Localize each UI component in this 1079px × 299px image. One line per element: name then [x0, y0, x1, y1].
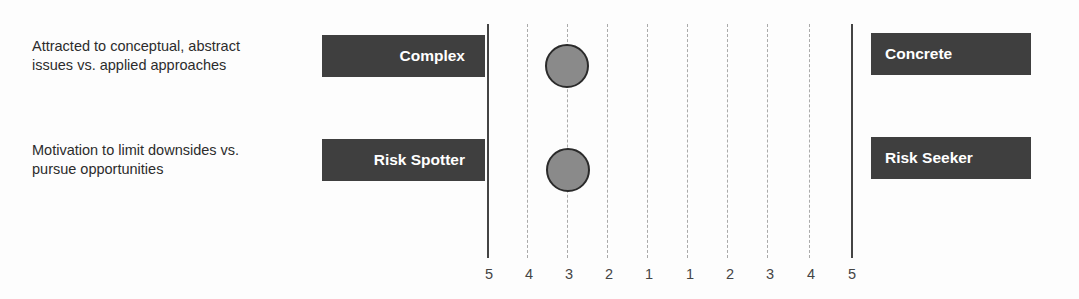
grid-line: [767, 24, 768, 258]
left-pole-risk-spotter: Risk Spotter: [322, 139, 485, 181]
tick-label: 4: [801, 266, 821, 282]
row-label-1-line2: issues vs. applied approaches: [32, 56, 322, 75]
row-label-2-line1: Motivation to limit downsides vs.: [32, 141, 322, 160]
left-pole-complex: Complex: [322, 35, 485, 77]
right-axis-line: [851, 24, 853, 258]
grid-line: [809, 24, 810, 258]
grid-line: [727, 24, 728, 258]
right-pole-concrete: Concrete: [871, 33, 1031, 75]
tick-label: 1: [680, 266, 700, 282]
tick-label: 5: [842, 266, 862, 282]
grid-line: [687, 24, 688, 258]
tick-label: 2: [599, 266, 619, 282]
row-label-1-line1: Attracted to conceptual, abstract: [32, 37, 322, 56]
grid-line: [607, 24, 608, 258]
row-label-2: Motivation to limit downsides vs. pursue…: [32, 141, 322, 179]
right-pole-risk-seeker: Risk Seeker: [871, 137, 1031, 179]
tick-label: 5: [479, 266, 499, 282]
tick-label: 3: [760, 266, 780, 282]
grid-line: [647, 24, 648, 258]
tick-label: 3: [559, 266, 579, 282]
row-label-1: Attracted to conceptual, abstract issues…: [32, 37, 322, 75]
grid-line: [527, 24, 528, 258]
tick-label: 4: [519, 266, 539, 282]
data-point-row-1: [545, 44, 589, 88]
tick-label: 1: [639, 266, 659, 282]
tick-label: 2: [720, 266, 740, 282]
left-axis-line: [487, 24, 489, 258]
row-label-2-line2: pursue opportunities: [32, 160, 322, 179]
data-point-row-2: [546, 148, 590, 192]
